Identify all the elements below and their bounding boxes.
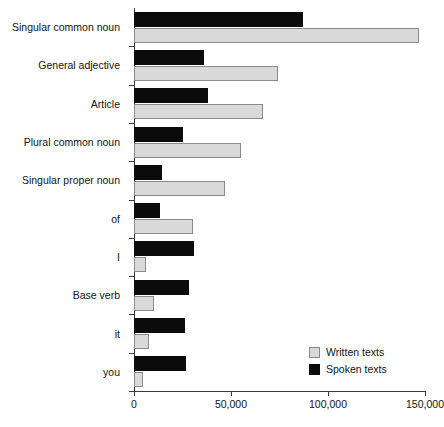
bar-written xyxy=(134,181,225,196)
legend: Written texts Spoken texts xyxy=(309,345,387,379)
legend-swatch-written-icon xyxy=(309,347,320,358)
category-label: Base verb xyxy=(73,290,120,301)
bar-spoken xyxy=(134,50,204,65)
value-axis-tick xyxy=(231,391,232,396)
value-axis-tick xyxy=(134,391,135,396)
category-label: Article xyxy=(91,98,120,109)
value-axis-tick-label: 100,000 xyxy=(309,398,347,410)
category-axis-tick xyxy=(129,46,134,47)
value-axis-tick-label: 50,000 xyxy=(215,398,247,410)
plot-area xyxy=(134,8,425,391)
category-label: Singular common noun xyxy=(12,22,120,33)
category-label: you xyxy=(103,366,120,377)
bar-written xyxy=(134,334,149,349)
bar-spoken xyxy=(134,127,183,142)
category-axis-tick xyxy=(129,238,134,239)
category-label: General adjective xyxy=(38,60,120,71)
legend-label-written: Written texts xyxy=(326,347,384,358)
value-axis-tick-label: 0 xyxy=(131,398,137,410)
category-label: I xyxy=(117,251,120,262)
category-axis-tick xyxy=(129,353,134,354)
bar-written xyxy=(134,28,419,43)
category-label: it xyxy=(115,328,120,339)
legend-item-written: Written texts xyxy=(309,345,387,360)
bar-spoken xyxy=(134,356,186,371)
bar-written xyxy=(134,143,241,158)
value-axis-tick-label: 150,000 xyxy=(406,398,444,410)
bar-spoken xyxy=(134,165,162,180)
category-axis-tick xyxy=(129,161,134,162)
bar-written xyxy=(134,257,146,272)
bar-spoken xyxy=(134,12,303,27)
bar-spoken xyxy=(134,318,185,333)
category-axis-tick xyxy=(129,85,134,86)
value-axis-tick xyxy=(425,391,426,396)
bar-written xyxy=(134,296,154,311)
legend-item-spoken: Spoken texts xyxy=(309,362,387,377)
category-axis-tick xyxy=(129,276,134,277)
bar-written xyxy=(134,372,143,387)
category-axis-labels: Singular common nounGeneral adjectiveArt… xyxy=(0,8,128,391)
bar-written xyxy=(134,66,278,81)
legend-swatch-spoken-icon xyxy=(309,364,320,375)
category-axis-tick xyxy=(129,200,134,201)
value-axis-line xyxy=(134,391,426,392)
bar-spoken xyxy=(134,241,194,256)
category-axis-tick xyxy=(129,314,134,315)
bar-spoken xyxy=(134,88,208,103)
category-label: of xyxy=(111,213,120,224)
bar-written xyxy=(134,219,193,234)
bar-spoken xyxy=(134,280,189,295)
category-axis-tick xyxy=(129,123,134,124)
category-label: Singular proper noun xyxy=(22,175,120,186)
legend-label-spoken: Spoken texts xyxy=(326,364,387,375)
bar-written xyxy=(134,104,263,119)
bar-spoken xyxy=(134,203,160,218)
value-axis-tick xyxy=(328,391,329,396)
category-label: Plural common noun xyxy=(24,137,120,148)
